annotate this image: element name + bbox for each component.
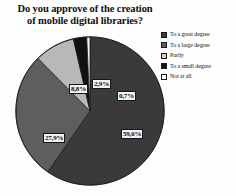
legend-label: To a large degree	[170, 42, 210, 49]
legend-label: To a great degree	[170, 31, 210, 38]
legend-swatch-icon	[161, 32, 167, 38]
legend-label: Partly	[170, 52, 184, 59]
chart-title-line-2: of mobile digital libraries?	[27, 15, 143, 26]
data-label-partly: 8,8%	[69, 84, 88, 94]
chart-title-line-1: Do you approve of the creation	[17, 3, 152, 14]
legend-item-to-a-small-degree: To a small degree	[161, 62, 234, 71]
data-label-to-a-great-degree: 59,6%	[121, 129, 143, 139]
data-label-not-at-all: 0,7%	[117, 91, 136, 101]
legend-label: Not at all	[170, 73, 191, 80]
legend-item-partly: Partly	[161, 51, 234, 60]
pie-slice-group	[16, 37, 164, 185]
legend-item-not-at-all: Not at all	[161, 72, 234, 81]
legend-item-to-a-great-degree: To a great degree	[161, 30, 234, 39]
legend-swatch-icon	[161, 74, 167, 80]
chart-figure: Do you approve of the creation of mobile…	[0, 0, 236, 196]
legend-item-to-a-large-degree: To a large degree	[161, 41, 234, 50]
chart-title: Do you approve of the creation of mobile…	[6, 3, 164, 27]
pie-chart: 0,7% 59,6% 27,9% 8,8% 2,9%	[14, 28, 166, 194]
legend-swatch-icon	[161, 53, 167, 59]
chart-legend: To a great degree To a large degree Part…	[161, 30, 234, 83]
data-label-to-a-small-degree: 2,9%	[92, 79, 111, 89]
data-label-to-a-large-degree: 27,9%	[43, 133, 65, 143]
legend-swatch-icon	[161, 63, 167, 69]
pie-svg	[14, 28, 166, 194]
legend-swatch-icon	[161, 42, 167, 48]
legend-label: To a small degree	[170, 63, 211, 70]
